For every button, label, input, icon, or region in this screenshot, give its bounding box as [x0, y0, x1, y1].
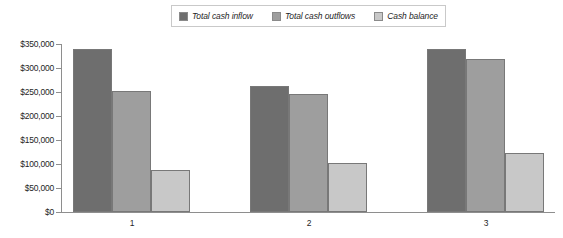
legend-swatch-icon: [374, 12, 383, 21]
bars-layer: [0, 0, 563, 238]
legend-item-cash-balance: Cash balance: [374, 12, 438, 21]
legend-item-total-cash-inflow: Total cash inflow: [179, 12, 253, 21]
bar-1-series-1: [73, 49, 112, 212]
bar-chart: $350,000 $300,000 $250,000 $200,000 $150…: [0, 0, 563, 238]
x-tick-label: 2: [307, 219, 312, 228]
legend-item-label: Total cash outflows: [285, 12, 355, 21]
bar-1-series-2: [112, 91, 151, 212]
x-tick-label: 1: [130, 219, 135, 228]
bar-1-series-3: [151, 170, 190, 212]
x-tick-label: 3: [484, 219, 489, 228]
bar-2-series-3: [328, 163, 367, 212]
bar-3-series-2: [466, 59, 505, 212]
bar-2-series-1: [250, 86, 289, 212]
legend-item-total-cash-outflows: Total cash outflows: [272, 12, 355, 21]
bar-2-series-2: [289, 94, 328, 212]
bar-3-series-1: [427, 49, 466, 212]
bar-3-series-3: [505, 153, 544, 212]
legend-item-label: Total cash inflow: [192, 12, 253, 21]
chart-legend: Total cash inflow Total cash outflows Ca…: [171, 5, 446, 27]
legend-swatch-icon: [272, 12, 281, 21]
legend-item-label: Cash balance: [387, 12, 438, 21]
legend-swatch-icon: [179, 12, 188, 21]
